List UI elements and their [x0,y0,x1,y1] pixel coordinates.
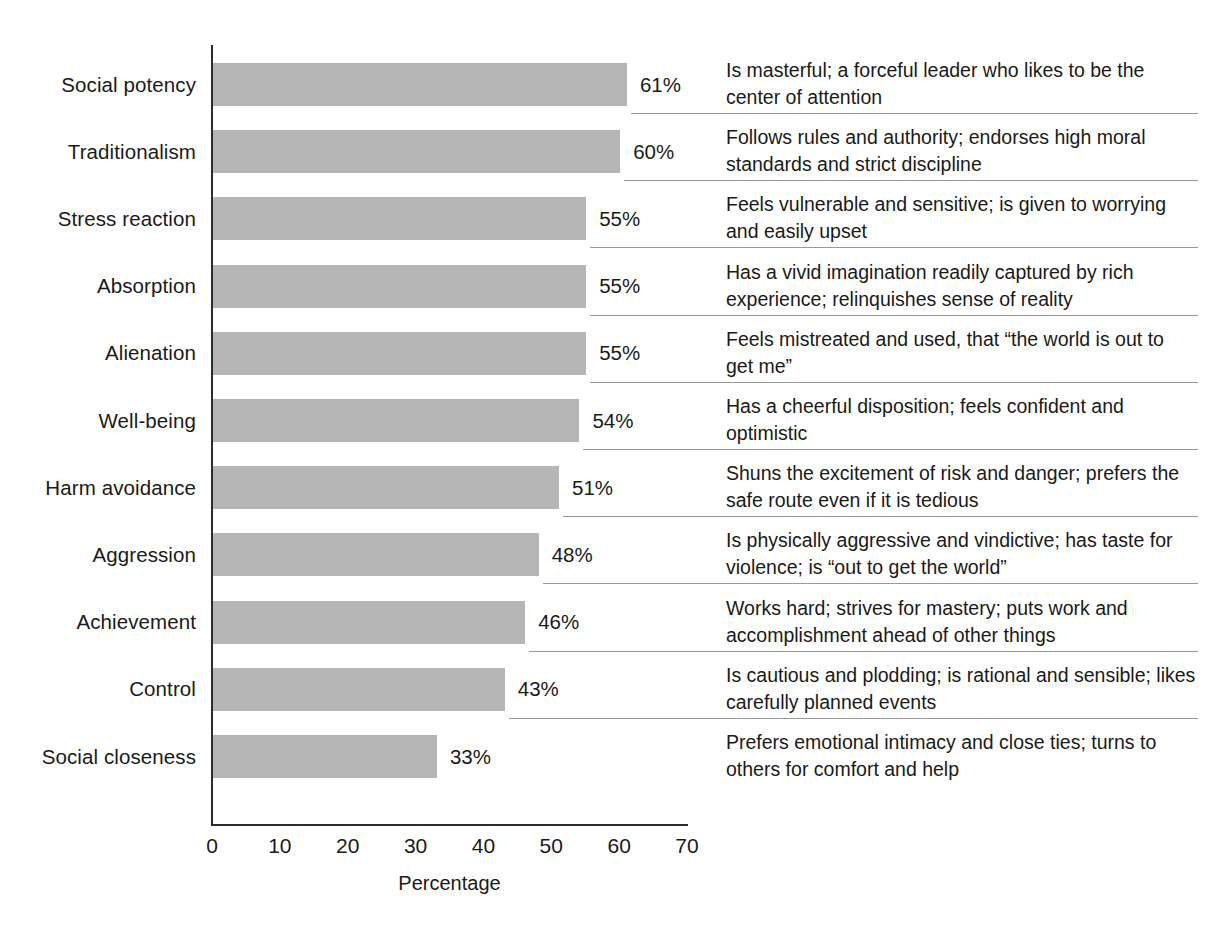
trait-description: Follows rules and authority; endorses hi… [726,124,1196,178]
category-label: Control [0,656,196,723]
bar [213,735,437,778]
row-separator [590,315,1198,316]
category-label: Harm avoidance [0,454,196,521]
bar [213,668,505,711]
bar-value-label: 33% [450,723,491,790]
category-label: Social closeness [0,723,196,790]
row-separator [631,113,1198,114]
category-label: Social potency [0,51,196,118]
bar-chart-figure: Social potency61%Is masterful; a forcefu… [0,0,1212,944]
x-tick-label: 70 [657,834,717,858]
trait-description: Prefers emotional intimacy and close tie… [726,729,1196,783]
chart-row: Social closeness33%Prefers emotional int… [0,723,1212,790]
x-axis-title: Percentage [211,872,688,895]
row-separator [624,180,1198,181]
bar-value-label: 60% [633,118,674,185]
bar [213,332,586,375]
chart-row: Absorption55%Has a vivid imagination rea… [0,253,1212,320]
bar [213,265,586,308]
chart-row: Achievement46%Works hard; strives for ma… [0,589,1212,656]
bar-value-label: 48% [552,521,593,588]
row-separator [563,516,1198,517]
chart-row: Traditionalism60%Follows rules and autho… [0,118,1212,185]
x-tick-label: 30 [386,834,446,858]
bar-value-label: 55% [599,253,640,320]
bar [213,130,620,173]
chart-row: Social potency61%Is masterful; a forcefu… [0,51,1212,118]
chart-row: Control43%Is cautious and plodding; is r… [0,656,1212,723]
bar [213,533,539,576]
bar [213,63,627,106]
x-tick-label: 0 [182,834,242,858]
bar-value-label: 43% [518,656,559,723]
bar-value-label: 61% [640,51,681,118]
chart-row: Stress reaction55%Feels vulnerable and s… [0,185,1212,252]
category-label: Alienation [0,320,196,387]
chart-row: Well-being54%Has a cheerful disposition;… [0,387,1212,454]
x-tick-label: 50 [521,834,581,858]
trait-description: Is cautious and plodding; is rational an… [726,662,1196,716]
bar-value-label: 51% [572,454,613,521]
bar [213,399,579,442]
row-separator [590,382,1198,383]
trait-description: Works hard; strives for mastery; puts wo… [726,595,1196,649]
x-tick-label: 10 [250,834,310,858]
trait-description: Has a vivid imagination readily captured… [726,259,1196,313]
category-label: Traditionalism [0,118,196,185]
x-tick-label: 20 [318,834,378,858]
x-tick-label: 60 [589,834,649,858]
row-separator [529,651,1198,652]
trait-description: Is masterful; a forceful leader who like… [726,57,1196,111]
x-axis-line [211,824,688,826]
bar-value-label: 55% [599,185,640,252]
bar [213,466,559,509]
trait-description: Has a cheerful disposition; feels confid… [726,393,1196,447]
bar [213,197,586,240]
trait-description: Shuns the excitement of risk and danger;… [726,460,1196,514]
category-label: Absorption [0,253,196,320]
trait-description: Feels vulnerable and sensitive; is given… [726,191,1196,245]
trait-description: Is physically aggressive and vindictive;… [726,527,1196,581]
bar-value-label: 55% [599,320,640,387]
chart-row: Alienation55%Feels mistreated and used, … [0,320,1212,387]
trait-description: Feels mistreated and used, that “the wor… [726,326,1196,380]
bar-value-label: 54% [592,387,633,454]
bar-value-label: 46% [538,589,579,656]
row-separator [543,583,1198,584]
category-label: Well-being [0,387,196,454]
row-separator [590,247,1198,248]
category-label: Stress reaction [0,185,196,252]
chart-row: Aggression48%Is physically aggressive an… [0,521,1212,588]
chart-row: Harm avoidance51%Shuns the excitement of… [0,454,1212,521]
bar [213,601,525,644]
category-label: Achievement [0,589,196,656]
row-separator [509,718,1198,719]
x-tick-label: 40 [453,834,513,858]
row-separator [583,449,1198,450]
category-label: Aggression [0,521,196,588]
